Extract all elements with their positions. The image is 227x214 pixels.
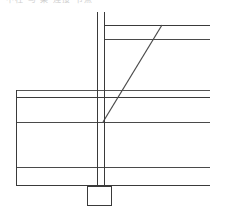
lower-beam-group [16, 168, 210, 186]
base-plate-rect [88, 187, 112, 206]
structural-detail-drawing [0, 0, 227, 214]
drawing-canvas: 中柱 与 梁 连接 节点 [0, 0, 227, 214]
column-group [98, 12, 105, 187]
